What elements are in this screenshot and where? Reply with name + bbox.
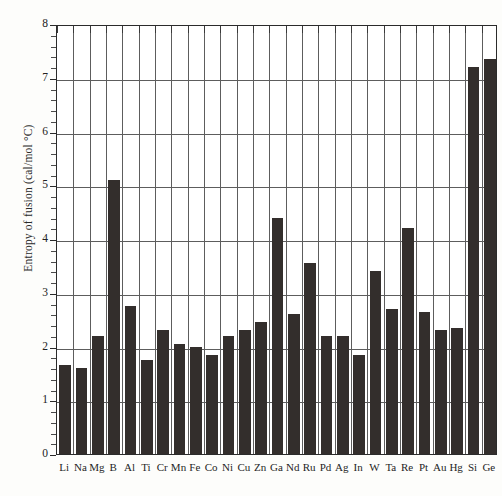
- gridline-x-12: [253, 26, 254, 454]
- y-tick-label-2: 2: [28, 340, 48, 352]
- y-tick-label-7: 7: [28, 71, 48, 83]
- gridline-x-19: [367, 26, 368, 454]
- bar-Ti: [141, 360, 153, 454]
- gridline-x-26: [482, 26, 483, 454]
- bar-Au: [435, 330, 447, 454]
- x-top-tick-23: [433, 26, 434, 33]
- y-axis-title: Entropy of fusion (cal/mol °C): [22, 78, 34, 318]
- bar-Hg: [451, 328, 463, 454]
- gridline-x-20: [384, 26, 385, 454]
- gridline-x-13: [269, 26, 270, 454]
- gridline-x-14: [286, 26, 287, 454]
- gridline-x-21: [400, 26, 401, 454]
- bar-Cu: [239, 330, 251, 454]
- gridline-x-2: [90, 26, 91, 454]
- gridline-x-15: [302, 26, 303, 454]
- gridline-x-23: [433, 26, 434, 454]
- bar-Na: [76, 368, 88, 454]
- gridline-x-25: [465, 26, 466, 454]
- y-tick-label-4: 4: [28, 232, 48, 244]
- entropy-of-fusion-bar-chart: Entropy of fusion (cal/mol °C) 012345678…: [0, 0, 502, 496]
- bar-In: [353, 355, 365, 454]
- x-top-tick-16: [318, 26, 319, 33]
- x-top-tick-13: [269, 26, 270, 33]
- bar-Ge: [484, 59, 496, 454]
- y-tick-0: [50, 455, 56, 456]
- gridline-x-3: [106, 26, 107, 454]
- x-top-tick-22: [416, 26, 417, 33]
- gridline-x-16: [318, 26, 319, 454]
- bar-Si: [468, 67, 480, 454]
- y-tick-label-6: 6: [28, 125, 48, 137]
- x-top-tick-10: [220, 26, 221, 33]
- bar-Ta: [386, 309, 398, 454]
- bar-Zn: [255, 322, 267, 454]
- bar-Co: [206, 355, 218, 454]
- gridline-x-8: [188, 26, 189, 454]
- bar-Ru: [304, 263, 316, 454]
- x-top-tick-6: [155, 26, 156, 33]
- y-tick-label-0: 0: [28, 447, 48, 459]
- gridline-x-6: [155, 26, 156, 454]
- bar-Nd: [288, 314, 300, 454]
- x-top-tick-4: [122, 26, 123, 33]
- x-top-tick-26: [482, 26, 483, 33]
- y-tick-label-8: 8: [28, 17, 48, 29]
- x-top-tick-17: [335, 26, 336, 33]
- x-top-tick-24: [449, 26, 450, 33]
- bar-Al: [125, 306, 137, 454]
- x-top-tick-5: [139, 26, 140, 33]
- plot-area: [56, 25, 497, 455]
- y-tick-label-5: 5: [28, 178, 48, 190]
- gridline-x-9: [204, 26, 205, 454]
- bar-Cr: [157, 330, 169, 454]
- x-top-tick-25: [465, 26, 466, 33]
- x-top-tick-1: [73, 26, 74, 33]
- bar-Pt: [419, 312, 431, 454]
- bar-Re: [402, 228, 414, 454]
- gridline-x-10: [220, 26, 221, 454]
- bar-Mg: [92, 336, 104, 454]
- y-tick-label-1: 1: [28, 393, 48, 405]
- bar-B: [108, 180, 120, 454]
- x-top-tick-15: [302, 26, 303, 33]
- gridline-x-17: [335, 26, 336, 454]
- gridline-x-1: [73, 26, 74, 454]
- bar-W: [370, 271, 382, 454]
- gridline-x-4: [122, 26, 123, 454]
- x-top-tick-3: [106, 26, 107, 33]
- x-label-Ge: Ge: [477, 461, 501, 473]
- x-top-tick-18: [351, 26, 352, 33]
- x-top-tick-8: [188, 26, 189, 33]
- x-top-tick-0: [57, 26, 58, 33]
- gridline-x-18: [351, 26, 352, 454]
- bar-Pd: [321, 336, 333, 454]
- y-tick-label-3: 3: [28, 286, 48, 298]
- gridline-x-22: [416, 26, 417, 454]
- x-top-tick-11: [237, 26, 238, 33]
- gridline-x-11: [237, 26, 238, 454]
- bar-Li: [59, 365, 71, 454]
- gridline-x-7: [171, 26, 172, 454]
- x-top-tick-21: [400, 26, 401, 33]
- bar-Mn: [174, 344, 186, 454]
- x-top-tick-19: [367, 26, 368, 33]
- bar-Ni: [223, 336, 235, 454]
- x-top-tick-20: [384, 26, 385, 33]
- gridline-x-5: [139, 26, 140, 454]
- x-top-tick-9: [204, 26, 205, 33]
- x-top-tick-7: [171, 26, 172, 33]
- x-top-tick-14: [286, 26, 287, 33]
- x-top-tick-12: [253, 26, 254, 33]
- bar-Ag: [337, 336, 349, 454]
- bar-Fe: [190, 347, 202, 455]
- gridline-x-24: [449, 26, 450, 454]
- x-top-tick-2: [90, 26, 91, 33]
- bar-Ga: [272, 218, 284, 455]
